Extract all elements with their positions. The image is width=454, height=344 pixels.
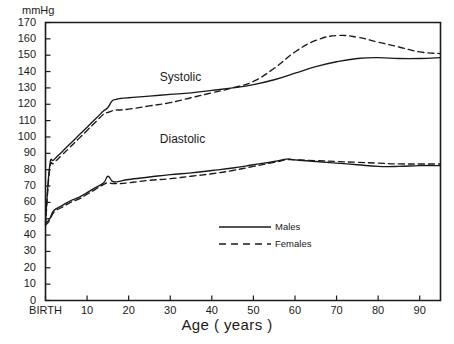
y-tick-label: 50	[12, 212, 36, 224]
y-tick-label: 110	[12, 114, 36, 126]
y-tick-label: 20	[12, 261, 36, 273]
y-tick-label: 130	[12, 81, 36, 93]
annotation-systolic: Systolic	[160, 70, 201, 84]
curve-systolic-females	[46, 35, 441, 225]
y-tick-label: 100	[12, 130, 36, 142]
blood-pressure-chart: mmHg 01020304050607080901001101201301401…	[0, 0, 454, 344]
legend-swatches	[219, 227, 271, 244]
plot-frame	[46, 23, 441, 301]
curve-diastolic-females	[46, 160, 441, 226]
axis-ticks	[46, 23, 420, 301]
curve-systolic-males	[46, 58, 441, 222]
legend-label-females: Females	[275, 238, 311, 249]
y-tick-label: 30	[12, 244, 36, 256]
y-tick-label: 140	[12, 65, 36, 77]
y-tick-label: 40	[12, 228, 36, 240]
chart-svg	[0, 0, 454, 344]
annotation-diastolic: Diastolic	[160, 132, 205, 146]
x-axis-title: Age ( years )	[0, 316, 454, 333]
y-tick-label: 80	[12, 163, 36, 175]
data-curves	[46, 35, 441, 225]
x-tick-label: 90	[390, 304, 450, 316]
y-tick-label: 10	[12, 277, 36, 289]
y-tick-label: 120	[12, 97, 36, 109]
y-tick-label: 60	[12, 195, 36, 207]
y-tick-label: 90	[12, 146, 36, 158]
legend-label-males: Males	[275, 221, 300, 232]
y-tick-label: 170	[12, 16, 36, 28]
y-tick-label: 160	[12, 32, 36, 44]
y-tick-label: 70	[12, 179, 36, 191]
y-tick-label: 150	[12, 48, 36, 60]
